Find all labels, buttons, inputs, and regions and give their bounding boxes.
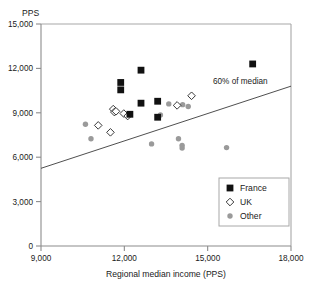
y-tick-label: 6,000 <box>13 153 34 162</box>
data-point <box>227 185 234 192</box>
data-point <box>149 141 154 146</box>
x-tick-label: 15,000 <box>195 254 220 263</box>
data-point <box>126 111 133 118</box>
data-point <box>188 92 196 100</box>
data-point <box>176 136 181 141</box>
x-axis-title: Regional median income (PPS) <box>106 269 226 279</box>
legend-item-label: France <box>240 183 267 193</box>
data-point <box>94 122 102 130</box>
x-tick-label: 12,000 <box>112 254 137 263</box>
data-point <box>179 145 184 150</box>
data-point <box>83 121 88 126</box>
chart-canvas: PPS 03,0006,0009,00012,00015,000 9,00012… <box>0 0 309 283</box>
scatter-chart: PPS 03,0006,0009,00012,00015,000 9,00012… <box>0 0 309 283</box>
data-point <box>117 79 124 86</box>
y-tick-label: 15,000 <box>8 20 33 29</box>
data-point <box>186 104 191 109</box>
x-tick-label: 18,000 <box>278 254 303 263</box>
series-france-markers <box>117 61 256 121</box>
legend-item-uk: UK <box>226 197 252 207</box>
data-point <box>154 114 161 121</box>
x-tick-label: 9,000 <box>31 254 52 263</box>
data-point <box>249 61 256 68</box>
data-point <box>154 98 161 105</box>
y-tick-label: 0 <box>28 242 33 251</box>
data-point <box>88 136 93 141</box>
chart-legend: FranceUKOther <box>219 178 289 226</box>
annotation-60-percent-of-median: 60% of median <box>213 77 268 86</box>
y-tick-label: 3,000 <box>13 198 34 207</box>
y-axis-unit-label: PPS <box>22 8 39 18</box>
reference-line-60-percent-of-median <box>41 86 291 168</box>
y-tick-label: 12,000 <box>8 64 33 73</box>
data-point <box>138 100 145 107</box>
data-point <box>138 67 145 74</box>
data-point <box>166 101 171 106</box>
data-point <box>107 129 115 137</box>
series-uk-markers <box>94 92 195 136</box>
y-axis-ticks: 03,0006,0009,00012,00015,000 <box>8 20 41 251</box>
legend-item-label: Other <box>240 211 262 221</box>
legend-item-label: UK <box>240 197 252 207</box>
series-other-markers <box>83 101 230 151</box>
data-point <box>224 145 229 150</box>
data-point <box>227 213 232 218</box>
data-point <box>117 86 124 93</box>
data-point <box>173 102 181 110</box>
y-tick-label: 9,000 <box>13 109 34 118</box>
x-axis-ticks: 9,00012,00015,00018,000 <box>31 246 304 263</box>
